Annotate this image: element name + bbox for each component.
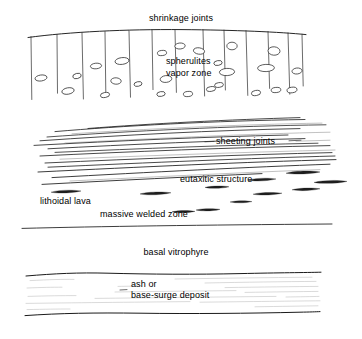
label-sheeting-joints: sheeting joints bbox=[216, 136, 275, 146]
fiamme-lens bbox=[286, 171, 320, 174]
ash-layer-bottom-line bbox=[25, 312, 320, 316]
massive-welded-zone-base-line bbox=[22, 224, 332, 228]
vertical-joint-line bbox=[288, 33, 290, 94]
vesicle bbox=[115, 57, 130, 65]
sheeting-joint-line bbox=[60, 150, 335, 159]
fiamme-lens bbox=[51, 190, 81, 193]
label-ash-or: ash or bbox=[131, 279, 157, 289]
ash-bedding-line bbox=[26, 302, 190, 304]
fiamme-lens bbox=[230, 201, 252, 203]
fiamme-lens bbox=[196, 209, 220, 211]
vesicle bbox=[35, 74, 48, 82]
vesicle bbox=[227, 42, 237, 50]
sheeting-joints-leader-right bbox=[289, 140, 301, 141]
ash-bedding-line bbox=[200, 301, 320, 302]
vesicle bbox=[271, 87, 281, 93]
vesicle bbox=[257, 64, 274, 72]
vertical-joint-line bbox=[129, 31, 131, 98]
ash-bedding-line bbox=[27, 309, 70, 310]
vesicle bbox=[111, 78, 122, 85]
ash-bedding-line bbox=[28, 296, 76, 297]
label-basal-vitrophyre: basal vitrophyre bbox=[116, 247, 236, 257]
vesicle bbox=[134, 81, 143, 87]
label-shrinkage-joints: shrinkage joints bbox=[126, 13, 236, 23]
vesicle bbox=[251, 90, 261, 96]
ash-layer-top-line bbox=[26, 272, 321, 276]
vertical-joint-line bbox=[82, 33, 83, 99]
fiamme-lens bbox=[253, 192, 282, 195]
vertical-joint-line bbox=[152, 30, 153, 90]
fiamme-lens bbox=[205, 186, 229, 188]
vesicle bbox=[206, 86, 216, 92]
vesicle bbox=[100, 92, 110, 98]
vertical-joint-line bbox=[31, 37, 32, 100]
label-eutaxitic-structure: eutaxitic structure bbox=[180, 174, 252, 184]
top-surface-line bbox=[28, 30, 306, 38]
vesicle bbox=[268, 46, 281, 55]
vesicle bbox=[287, 87, 298, 94]
sheeting-joint-line bbox=[55, 120, 305, 132]
vertical-joint-line bbox=[302, 34, 303, 86]
label-massive-welded-zone: massive welded zone bbox=[100, 209, 188, 219]
fiamme-lens bbox=[292, 188, 320, 191]
ash-bedding-line bbox=[27, 287, 62, 288]
vesicle bbox=[61, 87, 74, 95]
vertical-joint-line bbox=[224, 30, 225, 90]
vesicle bbox=[175, 43, 186, 50]
ash-bedding-line bbox=[225, 286, 318, 287]
vesicle bbox=[183, 91, 193, 97]
fiamme-lens bbox=[314, 180, 347, 183]
vertical-joint-line bbox=[246, 31, 248, 96]
vesicle bbox=[156, 91, 165, 97]
label-vapor-zone: vapor zone bbox=[166, 68, 212, 78]
label-lithoidal-lava: lithoidal lava bbox=[40, 196, 91, 206]
ash-bedding-line bbox=[30, 279, 74, 280]
sheeting-joint-line bbox=[55, 143, 318, 152]
ash-bedding-line bbox=[286, 296, 319, 297]
vesicle bbox=[90, 63, 102, 70]
ash-bedding-line bbox=[175, 277, 312, 279]
vertical-joint-line bbox=[57, 34, 58, 93]
vesicle bbox=[219, 68, 235, 76]
geologic-cross-section-diagram: shrinkage joints spherulites vapor zone … bbox=[0, 0, 362, 339]
vertical-joint-line bbox=[105, 32, 106, 92]
label-spherulites: spherulites bbox=[166, 56, 211, 66]
vesicle bbox=[214, 82, 223, 88]
diagram-canvas bbox=[0, 0, 362, 339]
vesicle bbox=[72, 72, 82, 79]
fiamme-lens bbox=[140, 192, 171, 195]
vesicle bbox=[213, 60, 222, 66]
vesicle bbox=[292, 67, 303, 74]
ash-bedding-line bbox=[205, 281, 316, 283]
vertical-joint-line bbox=[268, 32, 270, 89]
ash-bedding-line bbox=[255, 306, 318, 307]
ash-bedding-line bbox=[245, 291, 318, 292]
label-base-surge-deposit: base-surge deposit bbox=[131, 290, 209, 300]
